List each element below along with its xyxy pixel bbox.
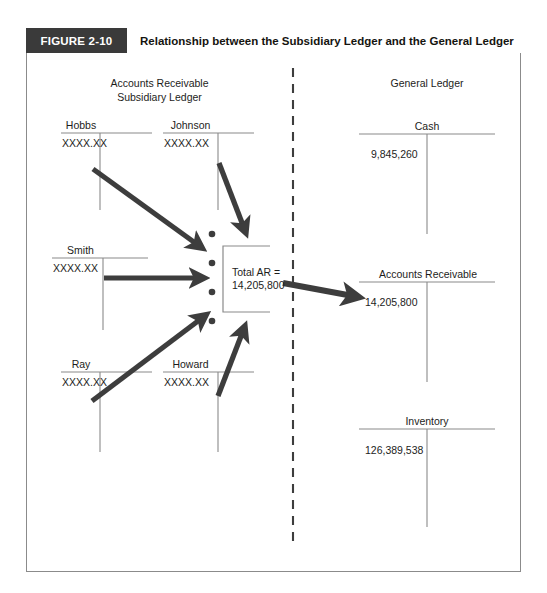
gl-account-name-cash: Cash — [398, 120, 456, 132]
account-name-hobbs: Hobbs — [61, 119, 101, 131]
gl-account-name-accounts-receivable: Accounts Receivable — [378, 268, 478, 280]
total-ar-value: 14,205,800 — [232, 279, 285, 292]
subsidiary-ledger-heading-line1: Accounts Receivable — [103, 76, 216, 90]
account-amount-hobbs: XXXX.XX — [62, 137, 107, 149]
account-name-johnson: Johnson — [163, 119, 218, 131]
gl-account-amount-accounts-receivable: 14,205,800 — [365, 296, 418, 308]
figure-header-bar: FIGURE 2-10 Relationship between the Sub… — [26, 28, 521, 53]
account-name-ray: Ray — [61, 358, 101, 370]
subsidiary-ledger-heading: Accounts Receivable Subsidiary Ledger — [103, 76, 216, 104]
gl-account-name-inventory: Inventory — [398, 415, 456, 427]
total-ar-block: Total AR = 14,205,800 — [232, 266, 285, 292]
figure-container: FIGURE 2-10 Relationship between the Sub… — [0, 0, 547, 593]
account-amount-ray: XXXX.XX — [62, 376, 107, 388]
account-amount-howard: XXXX.XX — [164, 376, 209, 388]
total-ar-label: Total AR = — [232, 266, 285, 279]
figure-number-label: FIGURE 2-10 — [26, 28, 127, 53]
general-ledger-heading: General Ledger — [373, 76, 481, 90]
gl-account-amount-cash: 9,845,260 — [371, 148, 418, 160]
figure-title: Relationship between the Subsidiary Ledg… — [127, 28, 521, 53]
account-name-smith: Smith — [58, 244, 103, 256]
gl-account-amount-inventory: 126,389,538 — [365, 444, 423, 456]
account-name-howard: Howard — [163, 358, 218, 370]
account-amount-johnson: XXXX.XX — [164, 137, 209, 149]
subsidiary-ledger-heading-line2: Subsidiary Ledger — [103, 90, 216, 104]
account-amount-smith: XXXX.XX — [53, 262, 98, 274]
